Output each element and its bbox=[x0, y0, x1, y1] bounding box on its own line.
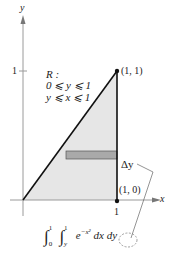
y-tick-label: 1 bbox=[12, 66, 17, 76]
diagram-canvas bbox=[0, 0, 170, 260]
outer-upper-limit: 1 bbox=[49, 225, 53, 232]
point-1-0-label: (1, 0) bbox=[119, 185, 141, 195]
delta-y-text: Δy bbox=[121, 158, 134, 170]
point-1-0 bbox=[115, 199, 119, 203]
horizontal-strip bbox=[66, 151, 117, 159]
y-axis-label: y bbox=[20, 3, 24, 13]
y-axis-arrow-icon bbox=[21, 15, 26, 24]
point-1-1 bbox=[115, 69, 119, 73]
x-axis-label: x bbox=[160, 194, 164, 204]
x-tick-label: 1 bbox=[114, 207, 119, 217]
region-constraint-1: 0 ⩽ y ⩽ 1 bbox=[46, 80, 91, 91]
outer-lower-limit: 0 bbox=[49, 241, 53, 248]
dy-highlight-circle bbox=[119, 233, 137, 247]
delta-y-label: Δy bbox=[121, 159, 134, 170]
inner-upper-limit: 1 bbox=[64, 225, 68, 232]
dx-term: dx bbox=[93, 229, 103, 241]
callout-line bbox=[131, 164, 153, 238]
point-1-1-label: (1, 1) bbox=[121, 66, 143, 76]
double-integral: ∫10 ∫1y e−x² dxdy bbox=[44, 228, 117, 245]
region-constraint-2: y ⩽ x ⩽ 1 bbox=[46, 92, 90, 103]
inner-lower-limit: y bbox=[64, 241, 67, 248]
integrand-exponent: −x² bbox=[81, 228, 91, 236]
dy-term: dy bbox=[107, 229, 117, 241]
